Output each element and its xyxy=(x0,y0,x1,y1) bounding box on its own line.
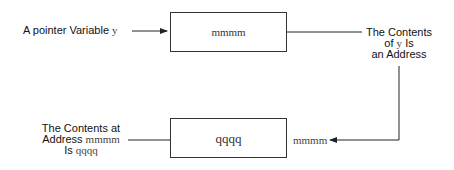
pointer-var-name: y xyxy=(112,24,118,36)
target-box: qqqq xyxy=(170,118,287,158)
pointer-box-value: mmmm xyxy=(171,26,286,38)
target-address-label: mmmm xyxy=(293,135,327,146)
contents-is-address-label: The Contents of y Is an Address xyxy=(363,27,435,60)
pointer-box: mmmm xyxy=(170,12,287,52)
pointer-variable-label: A pointer Variable y xyxy=(23,25,118,36)
target-box-value: qqqq xyxy=(171,131,286,147)
contents-at-address-label: The Contents at Address mmmm Is qqqq xyxy=(36,123,126,156)
arrow-address-to-target xyxy=(330,66,399,140)
